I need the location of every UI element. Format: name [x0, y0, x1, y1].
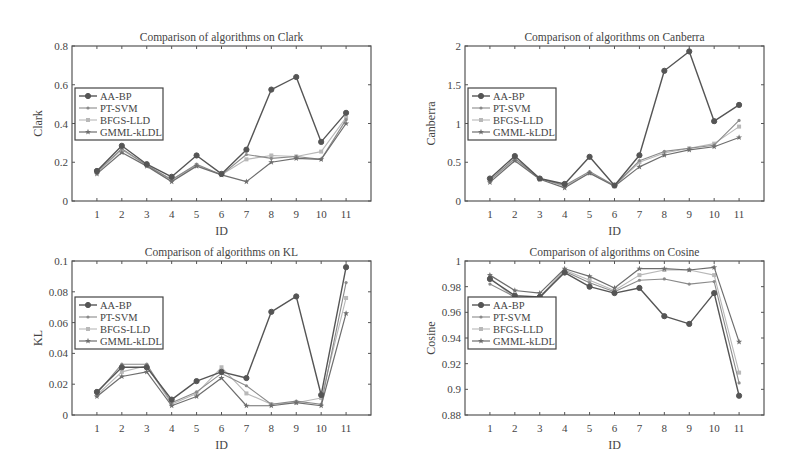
marker-circle — [712, 290, 717, 295]
x-tick-label: 3 — [537, 422, 543, 434]
marker-circle — [319, 139, 324, 144]
marker-circle — [119, 365, 124, 370]
x-tick-label: 1 — [487, 422, 493, 434]
marker-square — [637, 273, 641, 277]
marker-square — [319, 150, 323, 154]
x-tick-label: 11 — [341, 422, 352, 434]
y-tick-label: 0.88 — [442, 409, 462, 421]
marker-circle — [512, 153, 517, 158]
marker-circle — [94, 389, 99, 394]
marker-dot — [344, 281, 347, 284]
legend-label: PT-SVM — [100, 103, 138, 114]
x-tick-label: 1 — [487, 208, 493, 220]
marker-circle — [612, 290, 617, 295]
marker-star — [587, 273, 593, 279]
marker-circle — [144, 162, 149, 167]
y-tick-label: 0.5 — [447, 156, 461, 168]
x-tick-label: 1 — [94, 208, 100, 220]
y-tick-label: 0.08 — [49, 286, 69, 298]
x-tick-label: 3 — [537, 208, 543, 220]
legend: AA-BPPT-SVMBFGS-LLDGMML-kLDL — [75, 88, 163, 140]
legend-label: BFGS-LLD — [100, 324, 151, 335]
marker-square — [737, 125, 741, 129]
x-tick-label: 6 — [612, 208, 618, 220]
marker-circle — [85, 93, 90, 98]
x-tick-label: 2 — [512, 422, 518, 434]
x-tick-label: 10 — [709, 208, 721, 220]
marker-dot — [688, 283, 691, 286]
chart-clark: Comparison of algorithms on Clark ID Cla… — [31, 31, 371, 238]
x-tick-label: 11 — [734, 422, 745, 434]
x-tick-label: 10 — [316, 208, 328, 220]
chart-title: Comparison of algorithms on KL — [145, 246, 298, 259]
marker-circle — [169, 174, 174, 179]
marker-dot — [479, 315, 482, 318]
y-tick-label: 0.4 — [54, 118, 68, 130]
chart-kl: Comparison of algorithms on KL ID KL 123… — [31, 246, 371, 452]
x-tick-label: 8 — [662, 422, 668, 434]
x-tick-label: 9 — [687, 208, 693, 220]
x-tick-label: 8 — [662, 208, 668, 220]
y-tick-label: 0.06 — [49, 317, 69, 329]
marker-circle — [169, 397, 174, 402]
x-tick-label: 11 — [734, 208, 745, 220]
marker-dot — [663, 277, 666, 280]
x-axis-label: ID — [608, 438, 621, 452]
x-tick-label: 4 — [562, 208, 568, 220]
y-axis-label: Cosine — [424, 321, 438, 354]
marker-circle — [478, 302, 483, 307]
marker-circle — [244, 147, 249, 152]
marker-dot — [488, 283, 491, 286]
x-tick-label: 9 — [687, 422, 693, 434]
legend: AA-BPPT-SVMBFGS-LLDGMML-kLDL — [468, 88, 556, 140]
y-tick-label: 0 — [63, 195, 69, 207]
x-tick-label: 11 — [341, 208, 352, 220]
marker-circle — [587, 154, 592, 159]
x-tick-label: 9 — [294, 208, 300, 220]
legend-label: AA-BP — [493, 91, 525, 102]
marker-circle — [244, 375, 249, 380]
y-axis-label: Clark — [31, 110, 45, 137]
y-tick-label: 0.96 — [442, 306, 462, 318]
marker-circle — [736, 102, 741, 107]
marker-dot — [713, 280, 716, 283]
legend-label: GMML-kLDL — [493, 336, 555, 347]
marker-circle — [94, 168, 99, 173]
y-tick-label: 0.04 — [49, 347, 69, 359]
y-tick-label: 0.6 — [54, 79, 68, 91]
marker-dot — [737, 381, 740, 384]
marker-dot — [479, 106, 482, 109]
legend: AA-BPPT-SVMBFGS-LLDGMML-kLDL — [75, 297, 163, 349]
marker-circle — [219, 171, 224, 176]
x-tick-label: 3 — [144, 422, 150, 434]
marker-square — [244, 391, 248, 395]
y-tick-label: 0.1 — [54, 255, 68, 267]
legend-label: AA-BP — [100, 91, 132, 102]
x-tick-label: 3 — [144, 208, 150, 220]
legend-label: GMML-kLDL — [100, 336, 162, 347]
marker-circle — [487, 276, 492, 281]
marker-circle — [194, 379, 199, 384]
marker-square — [120, 370, 124, 374]
marker-circle — [687, 49, 692, 54]
marker-circle — [85, 302, 90, 307]
x-tick-label: 7 — [637, 422, 643, 434]
x-tick-label: 9 — [294, 422, 300, 434]
marker-dot — [245, 384, 248, 387]
marker-dot — [638, 159, 641, 162]
marker-dot — [638, 279, 641, 282]
marker-circle — [687, 321, 692, 326]
x-axis-label: ID — [215, 438, 228, 452]
legend-label: PT-SVM — [493, 103, 531, 114]
marker-circle — [194, 153, 199, 158]
x-tick-label: 7 — [244, 422, 250, 434]
legend-label: BFGS-LLD — [100, 115, 151, 126]
legend-label: PT-SVM — [100, 312, 138, 323]
y-tick-label: 0.8 — [54, 40, 68, 52]
marker-circle — [478, 93, 483, 98]
legend-label: BFGS-LLD — [493, 324, 544, 335]
x-tick-label: 6 — [612, 422, 618, 434]
marker-circle — [319, 392, 324, 397]
chart-title: Comparison of algorithms on Canberra — [524, 31, 704, 44]
x-tick-label: 6 — [219, 208, 225, 220]
